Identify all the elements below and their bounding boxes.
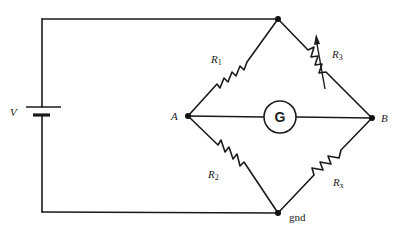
node-gnd <box>275 210 281 216</box>
resistor-r2 <box>188 116 278 213</box>
source-label: V <box>10 106 18 118</box>
wire-bottom <box>42 212 278 213</box>
r3-label: R3 <box>331 48 343 62</box>
galvanometer-label: G <box>275 109 286 125</box>
wire-a-to-g <box>188 116 264 117</box>
node-gnd-label: gnd <box>289 211 306 223</box>
r1-label: R1 <box>210 53 222 67</box>
node-a-label: A <box>170 110 178 122</box>
node-b-label: B <box>381 112 388 124</box>
rx-label: Rx <box>332 176 344 190</box>
circuit-canvas: V R1 R3 R2 Rx G A B gnd <box>0 0 396 232</box>
resistor-r3 <box>278 19 372 118</box>
battery-icon <box>26 107 61 115</box>
node-top <box>275 16 281 22</box>
resistor-rx <box>278 118 372 213</box>
node-b <box>369 115 375 121</box>
r2-label: R2 <box>207 168 219 182</box>
resistor-r1 <box>188 19 278 116</box>
node-a <box>185 113 191 119</box>
wheatstone-bridge-diagram: V R1 R3 R2 Rx G A B gnd <box>0 0 396 232</box>
wire-g-to-b <box>296 117 372 118</box>
